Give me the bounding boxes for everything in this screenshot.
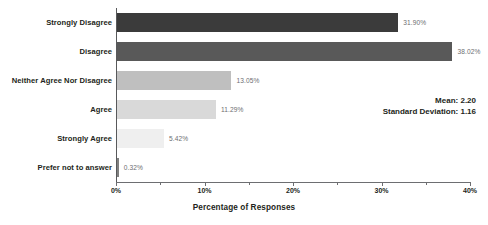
x-axis-tick-label: 30% xyxy=(374,187,388,194)
x-axis-minor-tick xyxy=(337,182,338,185)
statistics-annotation: Mean: 2.20 Standard Deviation: 1.16 xyxy=(383,95,476,117)
x-axis-minor-tick xyxy=(160,182,161,185)
category-label: Strongly Disagree xyxy=(0,18,112,27)
standard-deviation-label: Standard Deviation: 1.16 xyxy=(383,106,476,117)
bar-agree xyxy=(116,100,216,118)
x-axis-tick-label: 0% xyxy=(111,187,121,194)
bar-row: 31.90% xyxy=(116,13,470,31)
bar-row: 38.02% xyxy=(116,42,470,60)
category-label: Strongly Agree xyxy=(0,134,112,143)
x-axis-title: Percentage of Responses xyxy=(0,203,488,212)
x-axis-tick xyxy=(382,182,383,186)
bar-strongly-agree xyxy=(116,129,164,147)
category-label: Disagree xyxy=(0,47,112,56)
x-axis-tick xyxy=(470,182,471,186)
bar-disagree xyxy=(116,42,452,60)
bar-row: 0.32% xyxy=(116,158,470,176)
mean-label: Mean: 2.20 xyxy=(383,95,476,106)
category-label: Neither Agree Nor Disagree xyxy=(0,76,112,85)
y-axis-line xyxy=(116,8,117,182)
bar-value-label: 31.90% xyxy=(403,19,426,26)
bar-value-label: 0.32% xyxy=(124,164,143,171)
bar-neither-agree-nor-disagree xyxy=(116,71,231,89)
bar-value-label: 38.02% xyxy=(457,48,480,55)
bar-value-label: 11.29% xyxy=(221,106,243,113)
bar-value-label: 13.05% xyxy=(236,77,259,84)
x-axis-tick-label: 10% xyxy=(197,187,211,194)
category-axis-labels: Strongly Disagree Disagree Neither Agree… xyxy=(0,8,112,182)
bar-strongly-disagree xyxy=(116,13,398,31)
bar-row: 5.42% xyxy=(116,129,470,147)
x-axis-tick-label: 40% xyxy=(463,187,477,194)
bar-value-label: 5.42% xyxy=(169,135,188,142)
bar-row: 13.05% xyxy=(116,71,470,89)
horizontal-bar-chart: Strongly Disagree Disagree Neither Agree… xyxy=(0,0,488,225)
x-axis-tick-label: 20% xyxy=(286,187,300,194)
x-axis-minor-tick xyxy=(249,182,250,185)
x-axis-tick xyxy=(293,182,294,186)
category-label: Prefer not to answer xyxy=(0,163,112,172)
x-axis-minor-tick xyxy=(426,182,427,185)
x-axis-tick xyxy=(116,182,117,186)
x-axis-tick xyxy=(205,182,206,186)
category-label: Agree xyxy=(0,105,112,114)
